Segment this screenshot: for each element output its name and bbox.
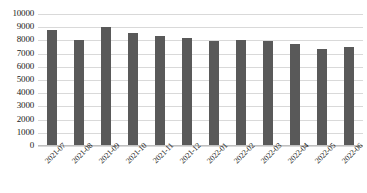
y-axis-tick-label: 1000 [0,128,34,137]
bar-slot [65,14,92,146]
bar-slot [309,14,336,146]
bar[interactable] [317,49,327,146]
bar-slot [38,14,65,146]
bar[interactable] [182,38,192,146]
x-slot: 2021-09 [92,148,119,193]
bar[interactable] [263,41,273,146]
bar[interactable] [290,44,300,146]
x-slot: 2022-06 [336,148,363,193]
x-slot: 2021-07 [38,148,65,193]
bar[interactable] [209,41,219,146]
y-axis-tick-label: 6000 [0,62,34,71]
x-slot: 2021-10 [119,148,146,193]
bar-chart: 1000090008000700060005000400030002000100… [0,0,367,193]
bar-slot [336,14,363,146]
x-slot: 2021-11 [146,148,173,193]
x-slot: 2022-01 [200,148,227,193]
x-slot: 2022-05 [309,148,336,193]
bar-slot [282,14,309,146]
x-slot: 2021-12 [173,148,200,193]
bar-slot [92,14,119,146]
bar[interactable] [101,27,111,146]
bar[interactable] [344,47,354,146]
x-slot: 2022-02 [228,148,255,193]
x-slot: 2021-08 [65,148,92,193]
bar[interactable] [128,33,138,146]
x-slot: 2022-03 [255,148,282,193]
bar-slot [200,14,227,146]
bar[interactable] [236,40,246,146]
bar[interactable] [74,40,84,146]
bar[interactable] [155,36,165,146]
bar-series [38,14,363,146]
bar[interactable] [47,30,57,146]
y-axis-tick-label: 0 [0,141,34,150]
y-axis-labels: 1000090008000700060005000400030002000100… [0,0,34,193]
y-axis-tick-label: 3000 [0,101,34,110]
y-axis-tick-label: 10000 [0,9,34,18]
bar-slot [173,14,200,146]
x-axis-labels: 2021-072021-082021-092021-102021-112021-… [38,148,363,193]
y-axis-tick-label: 4000 [0,88,34,97]
y-axis-tick-label: 5000 [0,75,34,84]
y-axis-tick-label: 7000 [0,49,34,58]
y-axis-tick-label: 9000 [0,22,34,31]
plot-area [38,14,363,146]
bar-slot [119,14,146,146]
y-axis-tick-label: 2000 [0,115,34,124]
x-slot: 2022-04 [282,148,309,193]
bar-slot [255,14,282,146]
y-axis-tick-label: 8000 [0,35,34,44]
bar-slot [228,14,255,146]
bar-slot [146,14,173,146]
